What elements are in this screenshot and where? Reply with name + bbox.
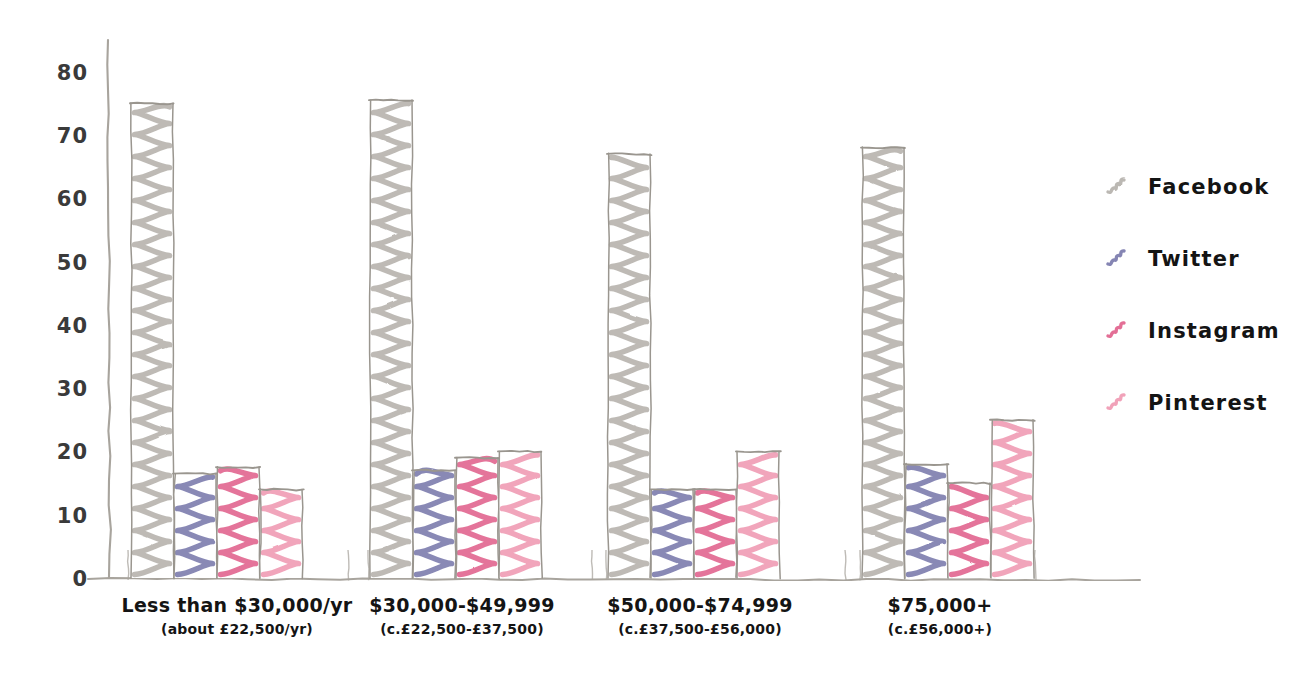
bar-outline-top xyxy=(216,467,260,468)
bar-outline-top xyxy=(861,147,905,148)
bar-group xyxy=(369,100,542,579)
y-axis-tick-label: 40 xyxy=(57,314,88,338)
bar-group xyxy=(861,147,1035,579)
category-label: Less than $30,000/yr xyxy=(121,594,352,616)
y-axis-tick-label: 70 xyxy=(57,124,88,148)
bar xyxy=(259,489,304,579)
legend-item-label: Twitter xyxy=(1148,247,1240,271)
bar xyxy=(216,467,260,579)
bar-outline-top xyxy=(455,457,499,458)
bar-outline-right xyxy=(1033,420,1034,579)
y-axis-tick-label: 20 xyxy=(57,440,88,464)
bar-outline-top xyxy=(736,451,781,452)
y-axis-tick-label: 60 xyxy=(57,187,88,211)
bar-outline-right xyxy=(541,451,543,578)
category-sublabel: (c.£37,500-£56,000) xyxy=(618,621,782,637)
legend-item[interactable]: Instagram xyxy=(1108,319,1280,343)
bar xyxy=(369,100,413,579)
y-axis-tick-label: 80 xyxy=(57,61,88,85)
bar-outline-left xyxy=(131,103,132,578)
bar xyxy=(650,489,694,578)
bar-outline-left xyxy=(651,490,652,578)
legend-item[interactable]: Twitter xyxy=(1108,247,1240,271)
scribble-swatch-icon xyxy=(1108,251,1124,264)
bar xyxy=(130,103,174,579)
legend-item[interactable]: Facebook xyxy=(1108,175,1269,199)
x-axis-baseline xyxy=(88,578,1140,581)
category-sublabel: (c.£22,500-£37,500) xyxy=(380,621,544,637)
x-axis-group-tick xyxy=(845,550,846,581)
y-axis: 01020304050607080 xyxy=(57,40,111,591)
scribble-swatch-icon xyxy=(1108,395,1124,408)
x-axis-group-tick xyxy=(860,550,861,580)
category-sublabel: (about £22,500/yr) xyxy=(161,621,313,637)
x-axis-group-tick xyxy=(368,550,369,580)
bar xyxy=(412,470,457,579)
bar xyxy=(947,483,991,579)
bar xyxy=(607,153,651,578)
legend-item[interactable]: Pinterest xyxy=(1108,391,1268,415)
x-axis-group-tick xyxy=(592,550,593,580)
category-label: $75,000+ xyxy=(888,594,993,616)
category-label: $50,000-$74,999 xyxy=(607,594,792,616)
bar xyxy=(173,473,217,578)
bars-layer xyxy=(130,100,1035,579)
y-axis-tick-label: 0 xyxy=(72,567,88,591)
bar xyxy=(498,451,542,578)
bar xyxy=(736,451,781,579)
bar-outline-top xyxy=(173,473,216,474)
bar xyxy=(861,147,905,579)
x-axis-group-tick xyxy=(128,550,129,580)
x-axis-group-tick xyxy=(606,550,607,580)
category-sublabel: (c.£56,000+) xyxy=(888,621,992,637)
bar-outline-left xyxy=(456,458,457,579)
legend-item-label: Facebook xyxy=(1148,175,1269,199)
bar-outline-left xyxy=(413,471,414,578)
bar xyxy=(693,489,738,578)
scribble-swatch-icon xyxy=(1108,179,1124,192)
bar-outline-top xyxy=(693,489,738,490)
bar-outline-top xyxy=(498,451,541,452)
scribble-swatch-icon xyxy=(1108,323,1124,336)
chart-canvas: 01020304050607080 Less than $30,000/yr(a… xyxy=(0,0,1315,699)
bar-outline-right xyxy=(779,451,781,578)
y-axis-tick-label: 50 xyxy=(57,251,88,275)
x-axis-group-tick xyxy=(348,550,349,581)
y-axis-line xyxy=(107,40,111,577)
bar-outline-top xyxy=(650,489,694,490)
bar-outline-left xyxy=(499,451,500,578)
legend-item-label: Instagram xyxy=(1148,319,1280,343)
category-label: $30,000-$49,999 xyxy=(369,594,554,616)
y-axis-tick-label: 30 xyxy=(57,377,88,401)
category-labels: Less than $30,000/yr(about £22,500/yr)$3… xyxy=(121,594,992,637)
legend: FacebookTwitterInstagramPinterest xyxy=(1108,175,1280,415)
bar xyxy=(904,464,948,579)
bar-outline-top xyxy=(904,464,948,465)
sketch-bar-chart: 01020304050607080 Less than $30,000/yr(a… xyxy=(0,0,1315,699)
bar xyxy=(455,457,499,578)
bar-group xyxy=(130,103,304,579)
bar-outline-left xyxy=(217,467,218,578)
legend-item-label: Pinterest xyxy=(1148,391,1268,415)
bar-group xyxy=(607,153,781,578)
y-axis-tick-label: 10 xyxy=(57,504,88,528)
bar xyxy=(990,420,1035,579)
